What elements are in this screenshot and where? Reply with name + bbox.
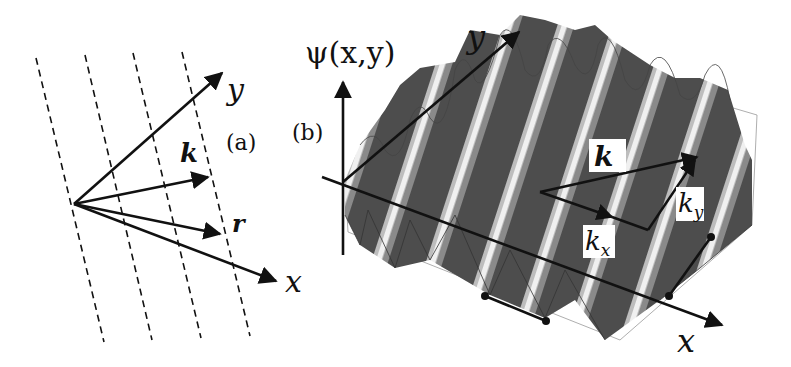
figure-canvas: y (a) k r x <box>0 0 791 367</box>
x-axis-arrow <box>74 204 276 281</box>
k-vector-label: k <box>180 138 198 168</box>
k-vector-arrow <box>74 177 208 204</box>
y-axis-label: y <box>225 72 245 107</box>
y-axis-arrow <box>74 73 222 204</box>
wavefront-lines <box>36 52 250 342</box>
r-vector-label: r <box>232 209 247 238</box>
x-axis-label: x <box>285 264 302 299</box>
r-vector-arrow <box>74 204 220 234</box>
k-3d-label: k <box>594 140 613 173</box>
vector-arrows <box>74 73 276 281</box>
x-axis-3d-label: x <box>677 322 695 360</box>
panel-b-label: (b) <box>292 120 323 145</box>
panel-b: k kx ky ψ(x,y) (b) y x <box>292 0 770 367</box>
wave-surface <box>330 0 770 367</box>
y-axis-3d-label: y <box>465 18 486 56</box>
psi-function-label: ψ(x,y) <box>305 35 395 70</box>
panel-a-label: (a) <box>226 130 256 155</box>
panel-a: y (a) k r x <box>36 52 302 342</box>
